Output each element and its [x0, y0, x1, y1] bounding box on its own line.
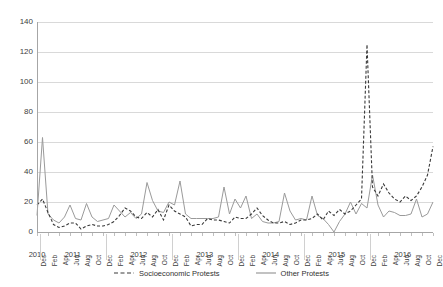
y-axis-tick-label: 100 [3, 78, 33, 86]
x-axis-tickmark [180, 233, 181, 236]
y-axis-tick-label: 0 [3, 228, 33, 236]
x-axis-tickmark [81, 233, 82, 236]
x-axis-tickmark [59, 233, 60, 236]
x-axis-year-label: 2013 [185, 250, 225, 260]
y-axis-tick-label: 80 [3, 108, 33, 116]
year-separator [238, 234, 239, 260]
x-axis-tickmark [290, 233, 291, 236]
x-axis-tickmark [235, 233, 236, 236]
x-axis-tickmark [367, 233, 368, 236]
year-separator [370, 234, 371, 260]
y-axis-tick-label: 140 [3, 18, 33, 26]
x-axis-tickmark [301, 233, 302, 236]
x-axis-tickmark [246, 233, 247, 236]
x-axis-year-label: 2011 [53, 250, 93, 260]
year-separator [304, 234, 305, 260]
x-axis-tickmark [356, 233, 357, 236]
x-axis-tickmark [389, 233, 390, 236]
x-axis-tickmark [400, 233, 401, 236]
x-axis-year-label: 2015 [317, 250, 357, 260]
legend-item-socioeconomic: Socioeconomic Protests [114, 269, 219, 278]
x-axis-tickmark [334, 233, 335, 236]
x-axis-tickmark [312, 233, 313, 236]
x-axis-tickmark [345, 233, 346, 236]
x-axis-tickmark [191, 233, 192, 236]
year-separator [172, 234, 173, 260]
y-axis-tick-label: 40 [3, 168, 33, 176]
dashed-line-icon [114, 270, 134, 276]
x-axis-year-labels: 2010201120122013201420152016 [37, 250, 433, 264]
y-axis-tick-label: 120 [3, 48, 33, 56]
y-axis-spine [37, 22, 38, 233]
x-axis-tickmark [213, 233, 214, 236]
y-axis-labels: 020406080100120140 [0, 0, 33, 240]
year-separator [106, 234, 107, 260]
y-axis-tick-label: 60 [3, 138, 33, 146]
plot-area [37, 22, 433, 232]
x-axis-tickmark [70, 233, 71, 236]
x-axis-tickmark [257, 233, 258, 236]
x-axis-tickmark [37, 233, 38, 236]
x-axis-tickmark [92, 233, 93, 236]
x-axis-tickmark [158, 233, 159, 236]
x-axis-tickmark [103, 233, 104, 236]
x-axis-tickmark [268, 233, 269, 236]
x-axis-tickmark [202, 233, 203, 236]
x-axis-year-label: 2016 [383, 250, 423, 260]
x-axis-tickmark [422, 233, 423, 236]
chart-legend: Socioeconomic Protests Other Protests [0, 266, 443, 280]
x-axis-tickmark [411, 233, 412, 236]
line-other-protests [37, 138, 433, 233]
x-axis-tickmark [279, 233, 280, 236]
x-axis-tick-label: Dec [436, 255, 443, 267]
line-socioeconomic-protests [37, 45, 433, 230]
x-axis-tickmark [136, 233, 137, 236]
legend-item-other: Other Protests [256, 269, 329, 278]
x-axis-year-label: 2012 [119, 250, 159, 260]
y-axis-tick-label: 20 [3, 198, 33, 206]
x-axis-year-label: 2014 [251, 250, 291, 260]
legend-label-socioeconomic: Socioeconomic Protests [139, 269, 219, 278]
solid-line-icon [256, 270, 276, 276]
x-axis-tickmark [169, 233, 170, 236]
x-axis-year-label: 2010 [17, 250, 57, 260]
year-separator [40, 234, 41, 260]
protest-timeseries-chart: 020406080100120140 DecFebAprJunAugOctDec… [0, 0, 443, 287]
x-axis-tickmark [125, 233, 126, 236]
x-axis-tickmark [378, 233, 379, 236]
legend-label-other: Other Protests [281, 269, 329, 278]
x-axis-tickmark [323, 233, 324, 236]
x-axis-tickmark [114, 233, 115, 236]
x-axis-tickmark [48, 233, 49, 236]
x-axis-tickmark [147, 233, 148, 236]
x-axis-tickmark [224, 233, 225, 236]
series-paths [37, 22, 433, 232]
x-axis-tickmark [433, 233, 434, 236]
